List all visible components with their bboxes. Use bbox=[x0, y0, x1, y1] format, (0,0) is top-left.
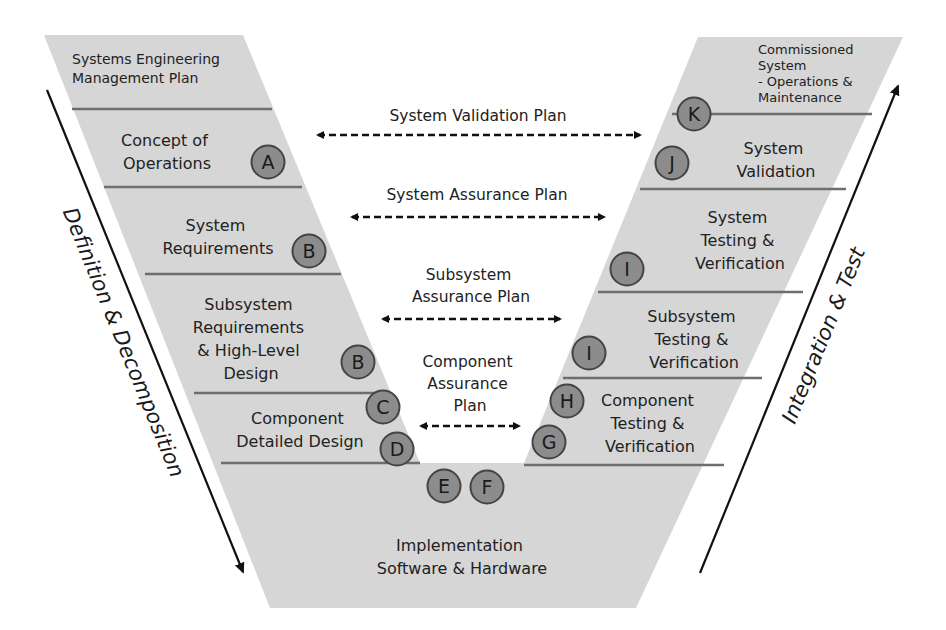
plan-system-validation: System Validation Plan bbox=[389, 107, 566, 125]
stage-system-testing: System Testing & Verification bbox=[695, 208, 785, 273]
plan-component-assurance: Component Assurance Plan bbox=[423, 353, 518, 415]
svg-text:D: D bbox=[390, 438, 405, 460]
marker-h: H bbox=[551, 385, 584, 418]
marker-b-subsystem: B bbox=[342, 346, 375, 379]
marker-g: G bbox=[533, 426, 566, 459]
svg-text:K: K bbox=[688, 103, 701, 125]
svg-text:H: H bbox=[560, 390, 574, 412]
marker-d: D bbox=[381, 433, 414, 466]
svg-text:A: A bbox=[262, 151, 275, 173]
stage-component-testing: Component Testing & Verification bbox=[601, 391, 699, 456]
svg-text:I: I bbox=[586, 342, 592, 364]
svg-text:B: B bbox=[302, 240, 315, 262]
svg-text:I: I bbox=[624, 258, 630, 280]
svg-text:J: J bbox=[668, 152, 675, 174]
svg-text:G: G bbox=[542, 431, 557, 453]
svg-text:B: B bbox=[351, 351, 364, 373]
marker-i-system: I bbox=[611, 253, 644, 286]
plan-system-assurance: System Assurance Plan bbox=[387, 186, 568, 204]
marker-k: K bbox=[678, 98, 711, 131]
marker-i-subsystem: I bbox=[573, 337, 606, 370]
marker-b-system: B bbox=[293, 235, 326, 268]
marker-a: A bbox=[252, 146, 285, 179]
marker-j: J bbox=[656, 147, 689, 180]
v-model-diagram: Systems Engineering Management Plan Conc… bbox=[0, 0, 946, 630]
plan-subsystem-assurance: Subsystem Assurance Plan bbox=[412, 266, 530, 306]
svg-text:F: F bbox=[482, 476, 493, 498]
marker-e: E bbox=[428, 470, 461, 503]
svg-text:E: E bbox=[438, 475, 450, 497]
marker-c: C bbox=[367, 391, 400, 424]
svg-text:C: C bbox=[376, 396, 389, 418]
stage-subsystem-testing: Subsystem Testing & Verification bbox=[647, 307, 740, 372]
marker-f: F bbox=[471, 471, 504, 504]
